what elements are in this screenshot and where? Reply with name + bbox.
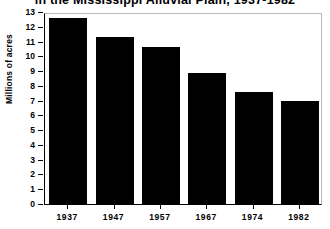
bar (142, 47, 180, 204)
bar (235, 92, 273, 204)
chart-title: in the Mississippi Alluvial Plain, 1937-… (0, 0, 330, 7)
y-tick-mark (38, 71, 43, 72)
y-tick-label: 2 (0, 169, 35, 180)
x-tick-label: 1937 (41, 212, 93, 222)
y-tick-mark (38, 174, 43, 175)
bar (188, 73, 226, 204)
bar (96, 37, 134, 204)
y-tick-mark (38, 160, 43, 161)
x-tick-label: 1982 (273, 212, 325, 222)
x-tick-mark (206, 205, 207, 209)
x-tick-label: 1957 (134, 212, 186, 222)
plot-area (44, 13, 322, 205)
y-tick-label: 3 (0, 155, 35, 166)
y-tick-label: 7 (0, 96, 35, 107)
y-tick-label: 8 (0, 81, 35, 92)
y-tick-mark (38, 101, 43, 102)
y-tick-label: 13 (0, 7, 35, 18)
y-tick-label: 5 (0, 125, 35, 136)
y-tick-mark (38, 27, 43, 28)
y-tick-mark (38, 56, 43, 57)
x-tick-mark (67, 205, 68, 209)
bar-series (45, 14, 321, 204)
x-tick-label: 1947 (88, 212, 140, 222)
y-tick-label: 4 (0, 140, 35, 151)
bar (281, 101, 319, 204)
y-tick-label: 10 (0, 51, 35, 62)
y-tick-mark (38, 42, 43, 43)
y-tick-mark (38, 204, 43, 205)
x-tick-label: 1974 (227, 212, 279, 222)
bar (49, 18, 87, 204)
y-tick-mark (38, 145, 43, 146)
x-tick-label: 1967 (180, 212, 232, 222)
y-tick-mark (38, 12, 43, 13)
x-tick-mark (253, 205, 254, 209)
y-tick-label: 9 (0, 66, 35, 77)
y-tick-label: 11 (0, 37, 35, 48)
y-tick-label: 12 (0, 22, 35, 33)
x-tick-mark (299, 205, 300, 209)
y-tick-label: 6 (0, 110, 35, 121)
x-tick-mark (114, 205, 115, 209)
y-tick-label: 0 (0, 199, 35, 210)
y-tick-mark (38, 130, 43, 131)
x-tick-mark (160, 205, 161, 209)
y-tick-label: 1 (0, 184, 35, 195)
y-tick-mark (38, 189, 43, 190)
y-tick-mark (38, 115, 43, 116)
bar-chart-figure: in the Mississippi Alluvial Plain, 1937-… (0, 0, 330, 229)
y-tick-mark (38, 86, 43, 87)
